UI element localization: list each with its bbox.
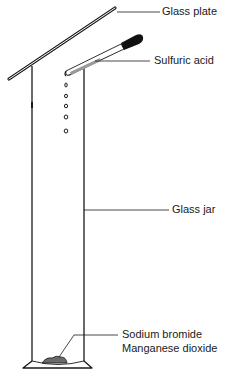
- label-sulfuric-acid: Sulfuric acid: [154, 54, 214, 67]
- dropper: [65, 34, 143, 76]
- label-manganese-dioxide: Manganese dioxide: [122, 342, 217, 355]
- acid-drops: [64, 83, 68, 133]
- reagent-pile: [42, 356, 67, 363]
- label-sodium-bromide: Sodium bromide: [122, 328, 202, 341]
- glass-plate: [9, 8, 115, 79]
- label-glass-jar: Glass jar: [172, 203, 215, 216]
- label-glass-plate: Glass plate: [162, 5, 217, 18]
- glass-jar: [23, 66, 92, 368]
- reagent-leader: [59, 335, 118, 357]
